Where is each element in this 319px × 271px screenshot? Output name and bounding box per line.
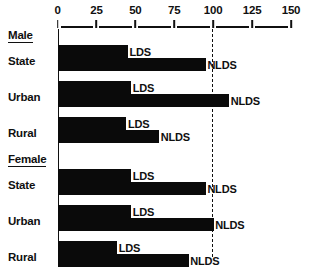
bar-chart: 0255075100125150 MaleStateLDSNLDSUrbanLD… <box>0 0 319 271</box>
bar-male-state-nlds <box>58 58 206 71</box>
axis-rule-segment <box>255 26 288 28</box>
bar-value-label-lds: LDS <box>133 170 154 182</box>
bar-value-label-lds: LDS <box>130 46 151 58</box>
axis-tick-label-0: 0 <box>54 4 60 16</box>
axis-tick-25 <box>96 20 98 28</box>
axis-tick-labels: 0255075100125150 <box>0 4 319 19</box>
axis-line <box>0 20 319 29</box>
bar-male-state-lds <box>58 45 128 58</box>
axis-rule-segment <box>61 26 94 28</box>
bar-female-rural-nlds <box>58 254 189 267</box>
axis-rule-segment <box>99 26 132 28</box>
category-label-male-rural: Rural <box>8 127 36 139</box>
bar-value-label-nlds: NLDS <box>190 255 219 267</box>
bar-male-urban-lds <box>58 81 131 94</box>
axis-tick-0 <box>57 20 59 28</box>
bar-value-label-nlds: NLDS <box>207 59 236 71</box>
axis-rule-segment <box>177 26 210 28</box>
axis-rule-segment <box>216 26 249 28</box>
group-title-male: Male <box>8 29 33 43</box>
bar-female-rural-lds <box>58 241 117 254</box>
axis-tick-125 <box>251 20 253 28</box>
bar-value-label-lds: LDS <box>128 118 149 130</box>
axis-tick-100 <box>212 20 214 28</box>
axis-tick-75 <box>173 20 175 28</box>
bar-female-state-nlds <box>58 182 206 195</box>
axis-tick-150 <box>290 20 292 28</box>
axis-rule-segment <box>138 26 171 28</box>
bar-male-rural-lds <box>58 117 126 130</box>
bar-male-rural-nlds <box>58 130 159 143</box>
bar-male-urban-nlds <box>58 94 229 107</box>
bar-value-label-lds: LDS <box>119 242 140 254</box>
plot-area: MaleStateLDSNLDSUrbanLDSNLDSRuralLDSNLDS… <box>0 29 319 264</box>
axis-tick-label-50: 50 <box>129 4 141 16</box>
axis-tick-label-75: 75 <box>168 4 180 16</box>
bar-female-state-lds <box>58 169 131 182</box>
bar-value-label-nlds: NLDS <box>207 183 236 195</box>
category-label-male-state: State <box>8 55 35 67</box>
axis-tick-label-125: 125 <box>243 4 262 16</box>
group-title-female: Female <box>8 153 46 167</box>
bar-value-label-nlds: NLDS <box>161 131 190 143</box>
bar-value-label-nlds: NLDS <box>231 95 260 107</box>
axis-tick-label-100: 100 <box>204 4 223 16</box>
axis-tick-50 <box>135 20 137 28</box>
bar-female-urban-lds <box>58 205 131 218</box>
category-label-male-urban: Urban <box>8 91 40 103</box>
category-label-female-state: State <box>8 179 35 191</box>
bar-value-label-lds: LDS <box>133 206 154 218</box>
bar-value-label-nlds: NLDS <box>215 219 244 231</box>
axis-tick-label-150: 150 <box>282 4 301 16</box>
bar-value-label-lds: LDS <box>133 82 154 94</box>
axis-tick-label-25: 25 <box>90 4 102 16</box>
category-label-female-urban: Urban <box>8 215 40 227</box>
category-label-female-rural: Rural <box>8 251 36 263</box>
bar-female-urban-nlds <box>58 218 214 231</box>
